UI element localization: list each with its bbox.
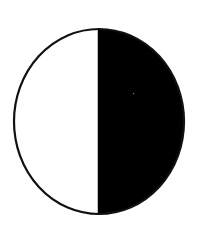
half-filled-circle-figure	[0, 0, 202, 226]
speck-dot	[133, 93, 134, 94]
half-circle-icon	[0, 0, 202, 226]
